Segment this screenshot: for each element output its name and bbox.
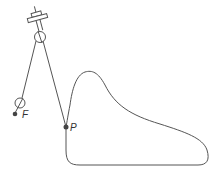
label-F: F <box>22 109 29 120</box>
string-to-weight <box>22 41 36 98</box>
point-P <box>64 125 69 130</box>
label-P: P <box>70 122 77 133</box>
closed-curve <box>66 71 208 165</box>
diagram-canvas: F P <box>0 0 216 178</box>
ceiling-mount-icon <box>25 4 51 33</box>
string-to-P <box>43 41 66 127</box>
point-F <box>13 112 18 117</box>
